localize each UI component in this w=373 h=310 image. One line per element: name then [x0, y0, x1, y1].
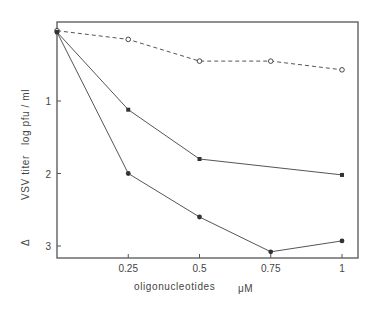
data-point: [126, 37, 131, 42]
x-axis-title: oligonucleotides: [134, 281, 215, 292]
x-tick-label: 1: [339, 263, 345, 274]
data-point: [268, 59, 273, 64]
y-axis-title: Δ VSV titer log pfu / ml: [20, 89, 31, 246]
data-point: [55, 30, 60, 35]
x-axis-ticks: 0.250.50.751: [119, 254, 346, 274]
series-open-circle: [55, 28, 345, 72]
x-tick-label: 0.5: [193, 263, 207, 274]
y-axis-ticks: 123: [45, 96, 61, 252]
x-tick-label: 0.25: [119, 263, 139, 274]
y-axis-title-unit: log pfu / ml: [20, 89, 31, 145]
y-tick-label: 1: [45, 96, 51, 107]
data-series: [55, 28, 345, 254]
data-point: [198, 157, 202, 161]
y-axis-title-main: VSV titer: [20, 155, 31, 200]
x-axis-unit: μM: [238, 283, 253, 294]
line-chart: 0.250.50.751 123 oligonucleotides μM Δ V…: [0, 0, 373, 310]
data-point: [340, 173, 344, 177]
x-tick-label: 0.75: [261, 263, 281, 274]
y-tick-label: 3: [45, 241, 51, 252]
data-point: [126, 171, 131, 176]
series-line: [57, 31, 342, 70]
data-point: [340, 239, 345, 244]
series-filled-square: [55, 30, 344, 177]
series-line: [57, 32, 342, 175]
data-point: [340, 68, 345, 73]
data-point: [197, 59, 202, 64]
plot-frame: [57, 22, 358, 258]
data-point: [126, 108, 130, 112]
data-point: [197, 215, 202, 220]
data-point: [268, 249, 273, 254]
plot-border: [57, 22, 358, 258]
y-tick-label: 2: [45, 169, 51, 180]
y-axis-delta-symbol: Δ: [20, 239, 31, 246]
